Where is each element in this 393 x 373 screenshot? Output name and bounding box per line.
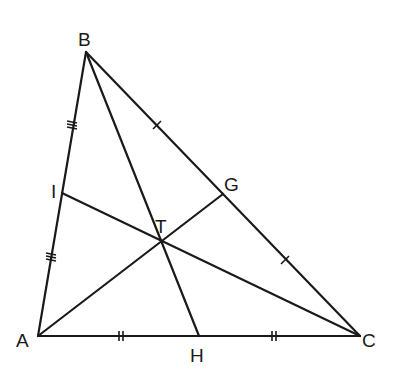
label-h: H: [190, 345, 204, 366]
median-ag: [38, 194, 223, 336]
tick-triple-bi: [67, 121, 77, 129]
label-g: G: [224, 174, 239, 195]
median-bh: [86, 52, 199, 336]
label-a: A: [16, 330, 29, 351]
median-ci: [62, 193, 360, 336]
triangle-diagram: B A C H G I T: [0, 0, 393, 373]
label-b: B: [78, 29, 91, 50]
label-c: C: [362, 330, 376, 351]
tick-triple-ia: [46, 253, 56, 261]
label-t: T: [155, 216, 167, 237]
label-i: I: [51, 181, 56, 202]
